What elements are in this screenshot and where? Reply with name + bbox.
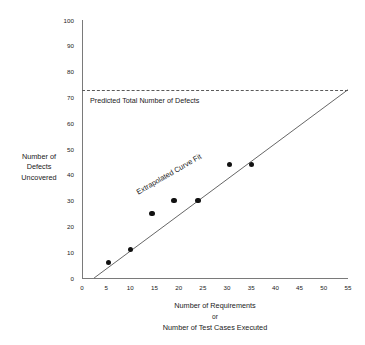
defect-discovery-chart: 0102030405060708090100 05101520253035404… <box>0 0 365 345</box>
x-axis-title: Number of RequirementsorNumber of Test C… <box>82 300 348 334</box>
x-axis-title-line: or <box>82 311 348 322</box>
data-point <box>249 162 254 167</box>
x-axis-title-line: Number of Requirements <box>82 300 348 311</box>
predicted-total-defects-line <box>82 90 348 91</box>
data-point <box>149 211 154 216</box>
predicted-total-defects-label: Predicted Total Number of Defects <box>90 96 199 105</box>
x-axis-title-line: Number of Test Cases Executed <box>82 322 348 333</box>
y-axis-title-line: Defects <box>6 162 72 172</box>
y-axis-title: Number ofDefectsUncovered <box>6 152 72 183</box>
data-point <box>171 198 176 203</box>
y-axis-title-line: Number of <box>6 152 72 162</box>
data-point <box>195 198 200 203</box>
y-axis-title-line: Uncovered <box>6 173 72 183</box>
